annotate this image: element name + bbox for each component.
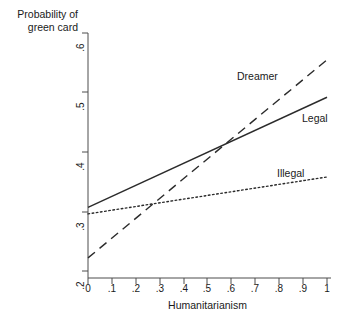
series-label-dreamer: Dreamer xyxy=(237,70,278,82)
x-tick-label-7: .7 xyxy=(243,283,267,294)
x-tick-label-3: .3 xyxy=(148,283,172,294)
x-axis-title: Humanitarianism xyxy=(88,299,327,311)
x-tick-label-0: 0 xyxy=(76,283,100,294)
chart-figure: Probability ofgreen card xyxy=(0,0,348,321)
x-tick-label-2: .2 xyxy=(124,283,148,294)
y-tick-label-6: .6 xyxy=(62,27,80,39)
y-tick-label-5: .5 xyxy=(62,86,80,98)
x-tick-label-10: 1 xyxy=(315,283,339,294)
series-label-legal: Legal xyxy=(302,112,328,124)
x-tick-label-6: .6 xyxy=(219,283,243,294)
x-tick-label-4: .4 xyxy=(172,283,196,294)
series-line-dreamer xyxy=(88,60,327,258)
x-tick-label-1: .1 xyxy=(100,283,124,294)
x-tick-label-8: .8 xyxy=(267,283,291,294)
y-tick-label-3: .3 xyxy=(62,206,80,218)
plot-area xyxy=(0,0,348,321)
series-line-illegal xyxy=(88,177,327,214)
series-line-legal xyxy=(88,97,327,207)
y-tick-label-2: .2 xyxy=(62,265,80,277)
x-tick-label-9: .9 xyxy=(291,283,315,294)
x-tick-label-5: .5 xyxy=(195,283,219,294)
y-tick-label-4: .4 xyxy=(62,146,80,158)
series-label-illegal: Illegal xyxy=(277,167,304,179)
